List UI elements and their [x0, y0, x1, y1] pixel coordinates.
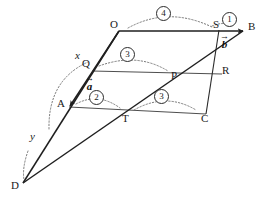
circled-number-4: 4: [156, 6, 171, 21]
geometry-figure: O S B Q P R A T C D x y → a → b 1 2 3 3 …: [0, 0, 270, 204]
point-label-P: P: [171, 70, 177, 81]
point-label-B: B: [248, 21, 255, 32]
segment-S-R-C: [206, 30, 219, 114]
arc-x-icon: [49, 62, 88, 129]
point-label-Q: Q: [82, 58, 90, 69]
vector-a-text: a: [87, 80, 93, 92]
circled-number-2: 2: [89, 90, 104, 105]
point-label-T: T: [122, 113, 129, 124]
arc-4-icon: [128, 17, 212, 28]
dotted-angle-arcs: [24, 17, 235, 180]
geometry-canvas: [0, 0, 270, 204]
point-label-S: S: [213, 19, 219, 30]
angle-label-y: y: [30, 131, 35, 142]
circled-number-3-lower: 3: [154, 89, 169, 104]
segment-Q-R: [92, 71, 222, 74]
vector-label-b: → b: [220, 34, 229, 50]
point-label-R: R: [222, 65, 229, 76]
arc-3-upper-icon: [99, 60, 168, 71]
point-label-A: A: [57, 98, 65, 109]
point-label-C: C: [201, 113, 208, 124]
segment-D-O: [23, 31, 119, 183]
vector-b-text: b: [222, 38, 228, 50]
circled-number-1: 1: [222, 12, 237, 27]
circled-number-3-upper: 3: [120, 47, 135, 62]
point-label-D: D: [11, 180, 19, 191]
point-label-O: O: [110, 19, 118, 30]
angle-label-x: x: [75, 50, 80, 61]
